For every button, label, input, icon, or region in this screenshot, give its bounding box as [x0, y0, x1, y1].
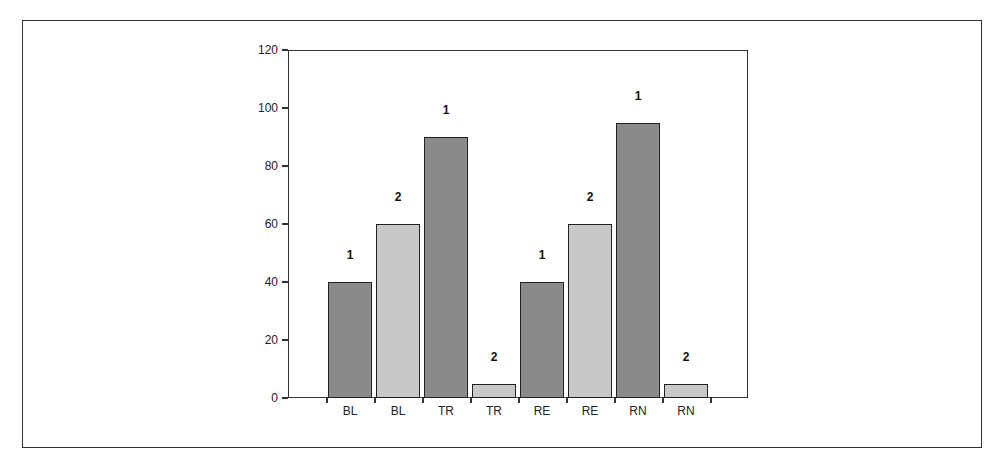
y-tick-label: 80	[238, 159, 278, 173]
bar	[520, 282, 564, 398]
x-tick	[422, 398, 424, 403]
y-tick	[282, 397, 288, 399]
x-tick	[470, 398, 472, 403]
bar	[616, 123, 660, 399]
x-tick	[662, 398, 664, 403]
y-tick-label: 60	[238, 217, 278, 231]
bar	[376, 224, 420, 398]
y-tick	[282, 339, 288, 341]
y-tick	[282, 223, 288, 225]
y-tick-label: 40	[238, 275, 278, 289]
bar	[568, 224, 612, 398]
x-tick	[710, 398, 712, 403]
y-tick-label: 120	[238, 43, 278, 57]
bar-series-label: 2	[664, 350, 708, 364]
y-tick	[282, 107, 288, 109]
x-tick-label: TR	[472, 404, 516, 418]
y-tick-label: 100	[238, 101, 278, 115]
bar-series-label: 1	[520, 248, 564, 262]
bar-series-label: 2	[376, 190, 420, 204]
y-tick	[282, 165, 288, 167]
bar	[664, 384, 708, 399]
x-tick	[614, 398, 616, 403]
x-tick-label: RN	[664, 404, 708, 418]
bar-series-label: 1	[424, 103, 468, 117]
x-tick	[518, 398, 520, 403]
bar-series-label: 2	[568, 190, 612, 204]
x-tick-label: RN	[616, 404, 660, 418]
x-tick-label: TR	[424, 404, 468, 418]
bar-series-label: 1	[328, 248, 372, 262]
x-tick	[566, 398, 568, 403]
y-tick	[282, 281, 288, 283]
x-tick-label: BL	[376, 404, 420, 418]
y-tick	[282, 49, 288, 51]
x-tick	[326, 398, 328, 403]
x-tick-label: BL	[328, 404, 372, 418]
y-tick-label: 20	[238, 333, 278, 347]
bar-series-label: 2	[472, 350, 516, 364]
x-tick-label: RE	[568, 404, 612, 418]
bar	[328, 282, 372, 398]
bar	[424, 137, 468, 398]
x-tick	[374, 398, 376, 403]
x-tick-label: RE	[520, 404, 564, 418]
bar	[472, 384, 516, 399]
y-tick-label: 0	[238, 391, 278, 405]
bar-series-label: 1	[616, 89, 660, 103]
